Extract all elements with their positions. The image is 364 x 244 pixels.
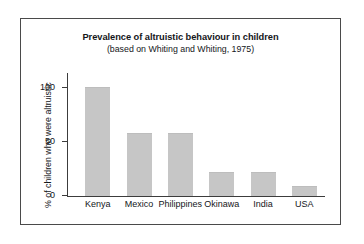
- x-axis-label-india: India: [253, 199, 273, 209]
- plot-area: 050100: [67, 73, 325, 197]
- x-axis-label-usa: USA: [295, 199, 314, 209]
- y-axis-tick-label: 50: [45, 136, 55, 146]
- y-axis-line: [67, 73, 68, 197]
- y-axis-tick: 0: [62, 195, 68, 196]
- y-axis-tick: 50: [62, 141, 68, 142]
- bar-okinawa: [209, 172, 234, 196]
- x-axis-label-okinawa: Okinawa: [204, 199, 239, 209]
- y-axis-tick-label: 100: [40, 82, 55, 92]
- chart-title-block: Prevalence of altruistic behaviour in ch…: [21, 31, 340, 55]
- bar-mexico: [127, 133, 152, 195]
- chart-figure-frame: Prevalence of altruistic behaviour in ch…: [20, 18, 341, 225]
- chart-subtitle: (based on Whiting and Whiting, 1975): [21, 43, 340, 55]
- x-axis-category-labels: KenyaMexicoPhilippinesOkinawaIndiaUSA: [67, 199, 325, 213]
- bar-usa: [292, 186, 317, 196]
- x-axis-label-mexico: Mexico: [125, 199, 154, 209]
- bar-philippines: [168, 133, 193, 195]
- x-axis-line: [67, 196, 325, 197]
- x-axis-label-philippines: Philippines: [159, 199, 203, 209]
- bar-kenya: [85, 87, 110, 196]
- y-axis-tick-label: 0: [50, 190, 55, 200]
- page-title: Prevalence of altruistic behaviour in ch…: [21, 31, 340, 43]
- x-axis-label-kenya: Kenya: [85, 199, 111, 209]
- y-axis-tick: 100: [62, 87, 68, 88]
- bar-india: [251, 172, 276, 196]
